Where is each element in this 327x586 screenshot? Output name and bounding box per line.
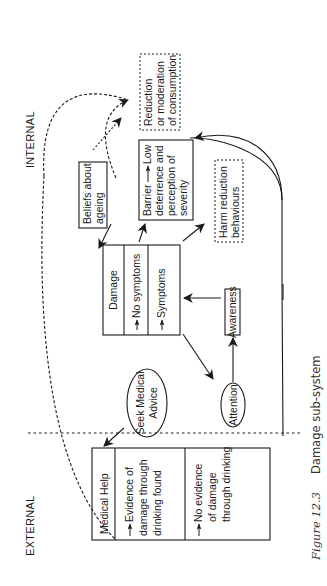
no-evidence-line-2: of damage bbox=[206, 472, 218, 522]
harm-reduction-node: Harm reduction behaviours bbox=[215, 160, 243, 242]
arrow-dotted-short bbox=[105, 100, 128, 178]
no-symptoms-label: No symptoms bbox=[130, 254, 142, 318]
unused bbox=[196, 118, 282, 148]
evidence-line-1: Evidence of bbox=[123, 467, 135, 522]
figure-number: Figure 12.3 bbox=[309, 492, 323, 561]
seek-medical-advice-node: Seek Medical Advice bbox=[127, 369, 167, 437]
medical-help-box: Medical Help Evidence of damage through … bbox=[92, 447, 270, 540]
barrier-line-3: perception of bbox=[165, 155, 177, 216]
reduction-line-3: of consumption bbox=[166, 55, 178, 126]
damage-title: Damage bbox=[107, 270, 119, 310]
arrow-damage-to-attention bbox=[183, 334, 213, 379]
beliefs-line-1: Beliefs about bbox=[81, 163, 93, 224]
attention-label: Attention bbox=[227, 384, 239, 426]
beliefs-about-ageing-node: Beliefs about ageing bbox=[79, 162, 107, 228]
awareness-node: Awareness bbox=[225, 286, 240, 338]
internal-label: INTERNAL bbox=[24, 111, 36, 168]
arrow-seek-to-medical-help bbox=[104, 428, 124, 446]
seek-line-1: Seek Medical bbox=[134, 371, 146, 434]
arrow-damage-to-harm-reduction bbox=[183, 224, 204, 241]
harm-line-1: Harm reduction bbox=[217, 166, 229, 238]
no-evidence-line-1: No evidence bbox=[192, 463, 204, 522]
low-label: Low bbox=[141, 144, 153, 164]
barrier-label: Barrier bbox=[141, 184, 153, 216]
unused-2 bbox=[200, 135, 282, 190]
damage-subsystem-diagram: EXTERNAL INTERNAL Medical Help Evidence … bbox=[0, 0, 327, 586]
evidence-line-2: damage through bbox=[137, 459, 149, 536]
medical-help-title: Medical Help bbox=[98, 473, 110, 534]
barrier-node: Barrier Low deterrence and perception of… bbox=[139, 140, 193, 220]
arrow-damage-to-barrier bbox=[139, 224, 145, 242]
barrier-line-2: deterrence and bbox=[153, 145, 165, 216]
barrier-line-4: severity bbox=[177, 179, 189, 216]
damage-box: Damage No symptoms Symptoms bbox=[103, 245, 180, 335]
figure-caption: Figure 12.3 Damage sub-system bbox=[306, 356, 323, 562]
figure-title: Damage sub-system bbox=[309, 356, 323, 475]
evidence-line-3: drinking found bbox=[151, 470, 163, 536]
attention-node: Attention bbox=[221, 383, 245, 427]
no-evidence-line-3: through drinking bbox=[220, 447, 232, 522]
symptoms-label: Symptoms bbox=[155, 268, 167, 318]
reduction-node: Reduction or moderation of consumption bbox=[140, 54, 180, 130]
arrow-loop-bottom bbox=[282, 286, 283, 436]
beliefs-line-2: ageing bbox=[93, 192, 105, 224]
reduction-line-2: or moderation bbox=[154, 61, 166, 126]
harm-line-2: behaviours bbox=[229, 187, 241, 238]
seek-line-2: Advice bbox=[147, 387, 159, 419]
awareness-label: Awareness bbox=[226, 286, 238, 338]
external-label: EXTERNAL bbox=[24, 496, 36, 556]
reduction-line-1: Reduction bbox=[142, 79, 154, 126]
